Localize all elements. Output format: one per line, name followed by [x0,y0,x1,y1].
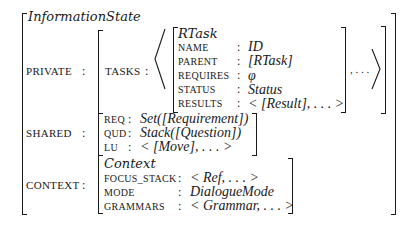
tasks-colon: : [145,65,148,77]
context-left-bracket [98,155,103,214]
right-angle-bracket-icon [371,48,381,90]
private-label: PRIVATE [26,66,72,77]
field-label: FOCUS_STACK [104,174,177,184]
field-colon: : [237,83,240,95]
field-colon: : [237,97,240,109]
field-colon: : [128,127,131,139]
left-angle-bracket-icon [154,28,166,90]
field-value: ID [248,40,263,54]
shared-left-bracket [98,113,103,156]
structure-type-title: InformationState [28,10,141,23]
field-label: REQ [104,115,125,125]
context-label: CONTEXT [26,180,79,191]
tasks-ellipsis: , . . . [350,64,369,75]
field-label: STATUS [178,85,216,95]
field-value: [RTask] [248,54,293,68]
field-label: REQUIRES [178,71,229,81]
field-label: MODE [104,188,135,198]
private-colon: : [82,65,85,77]
field-value: < [Move], . . . > [140,140,232,154]
field-value: < Grammar, . . . > [190,199,294,213]
private-right-bracket [381,26,386,114]
shared-right-bracket [252,113,257,156]
shared-label: SHARED [26,128,72,139]
field-label: QUD [104,129,127,139]
field-colon: : [178,172,181,184]
tasks-label: TASKS [105,66,140,77]
field-label: NAME [178,43,209,53]
field-colon: : [128,141,131,153]
field-colon: : [178,186,181,198]
field-colon: : [237,55,240,67]
field-value: DialogueMode [190,185,274,199]
field-value: φ [248,69,256,83]
field-label: LU [104,143,118,153]
private-left-bracket [98,30,103,114]
field-value: Stack([Question]) [140,126,241,140]
outer-right-bracket [391,13,396,215]
field-value: < Ref, . . . > [190,171,259,185]
field-label: GRAMMARS [104,202,165,212]
field-colon: : [178,200,181,212]
field-value: < [Result], . . . > [248,97,344,111]
rtask-type: RTask [178,27,218,40]
field-label: RESULTS [178,99,223,109]
field-value: Set([Requirement]) [140,112,248,126]
context-type: Context [104,157,156,170]
field-colon: : [237,69,240,81]
field-label: PARENT [178,57,218,67]
context-colon: : [82,179,85,191]
field-value: Status [248,83,282,97]
field-colon: : [237,41,240,53]
shared-colon: : [82,127,85,139]
field-colon: : [128,113,131,125]
